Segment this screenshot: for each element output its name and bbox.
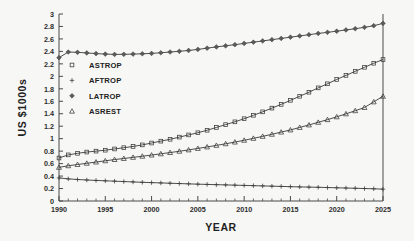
data-point-marker (112, 52, 117, 57)
y-tick-label: 0.4 (44, 172, 54, 181)
data-point-marker (70, 63, 74, 67)
legend-label: AFTROP (89, 76, 121, 85)
data-point-marker (103, 179, 108, 184)
data-point-marker (214, 182, 219, 187)
data-point-marker (140, 180, 145, 185)
data-point-marker (196, 47, 201, 52)
legend-label: ASTROP (89, 61, 122, 70)
y-tick-label: 1.4 (44, 109, 54, 118)
data-point-marker (177, 49, 182, 54)
y-tick-label: 0.6 (44, 159, 54, 168)
data-point-marker (279, 36, 284, 41)
data-point-marker (177, 181, 182, 186)
x-tick-label: 2015 (282, 205, 298, 214)
data-point-marker (70, 78, 75, 83)
y-tick-label: 0.2 (44, 184, 54, 193)
data-point-marker (260, 39, 265, 44)
data-point-marker (140, 51, 145, 56)
data-point-marker (371, 187, 376, 192)
data-point-marker (149, 180, 154, 185)
data-point-marker (270, 184, 275, 189)
data-point-marker (279, 184, 284, 189)
data-point-marker (196, 182, 201, 187)
y-tick-label: 2 (50, 72, 54, 81)
data-point-marker (325, 185, 330, 190)
data-point-marker (297, 34, 302, 39)
legend-item-aftrop[interactable]: AFTROP (70, 76, 122, 85)
x-tick-label: 2005 (190, 205, 206, 214)
y-tick-label: 1 (50, 134, 54, 143)
data-point-marker (233, 42, 238, 47)
x-tick-label: 2000 (144, 205, 160, 214)
data-point-marker (362, 25, 367, 30)
data-point-marker (214, 45, 219, 50)
data-point-marker (316, 31, 321, 36)
data-point-marker (288, 184, 293, 189)
data-point-marker (270, 37, 275, 42)
x-tick-label: 2010 (236, 205, 252, 214)
data-point-marker (158, 50, 163, 55)
data-point-marker (251, 40, 256, 45)
data-point-marker (344, 28, 349, 33)
data-point-marker (353, 26, 358, 31)
data-point-marker (381, 21, 386, 26)
legend-item-astrop[interactable]: ASTROP (70, 61, 122, 70)
data-point-marker (75, 50, 80, 55)
legend-item-asrest[interactable]: ASREST (70, 107, 122, 116)
data-point-marker (121, 52, 126, 57)
y-axis-title: US $1000s (16, 79, 28, 137)
data-point-marker (122, 179, 127, 184)
data-point-marker (307, 185, 312, 190)
series-aftrop (57, 176, 386, 192)
data-point-marker (131, 180, 136, 185)
data-point-marker (112, 179, 117, 184)
data-point-marker (85, 178, 90, 183)
data-point-marker (223, 43, 228, 48)
data-point-marker (371, 23, 376, 28)
data-point-marker (149, 51, 154, 56)
series-line (59, 23, 383, 57)
data-point-marker (66, 177, 71, 182)
data-point-marker (168, 50, 173, 55)
x-tick-label: 2020 (329, 205, 345, 214)
data-point-marker (251, 183, 256, 188)
data-point-marker (70, 93, 75, 98)
legend-label: LATROP (89, 92, 121, 101)
data-point-marker (242, 183, 247, 188)
y-tick-label: 1.6 (44, 97, 54, 106)
data-point-marker (334, 29, 339, 34)
data-point-marker (362, 186, 367, 191)
data-point-marker (75, 177, 80, 182)
data-point-marker (70, 109, 75, 113)
y-tick-label: 3 (50, 10, 54, 19)
x-axis-title: YEAR (205, 221, 237, 233)
data-point-marker (205, 182, 210, 187)
data-point-marker (242, 41, 247, 46)
data-point-marker (307, 32, 312, 37)
y-tick-label: 2.2 (44, 60, 54, 69)
y-tick-label: 1.8 (44, 85, 54, 94)
data-point-marker (205, 46, 210, 51)
series-latrop (57, 21, 386, 60)
y-tick-label: 2.6 (44, 35, 54, 44)
data-point-marker (334, 186, 339, 191)
data-point-marker (186, 182, 191, 187)
data-point-marker (168, 181, 173, 186)
data-point-marker (57, 55, 62, 60)
data-point-marker (381, 187, 386, 192)
data-point-marker (94, 51, 99, 56)
legend-item-latrop[interactable]: LATROP (70, 92, 121, 101)
data-point-marker (103, 52, 108, 57)
line-chart-figure: 00.20.40.60.811.21.41.61.822.22.42.62.83… (0, 0, 414, 241)
data-point-marker (186, 48, 191, 53)
data-point-marker (84, 51, 89, 56)
data-point-marker (316, 185, 321, 190)
data-point-marker (288, 35, 293, 40)
y-tick-label: 2.8 (44, 22, 54, 31)
x-tick-label: 1990 (51, 205, 67, 214)
x-tick-label: 2025 (375, 205, 391, 214)
data-point-marker (325, 30, 330, 35)
data-point-marker (66, 50, 71, 55)
data-point-marker (131, 52, 136, 57)
data-point-marker (94, 178, 99, 183)
